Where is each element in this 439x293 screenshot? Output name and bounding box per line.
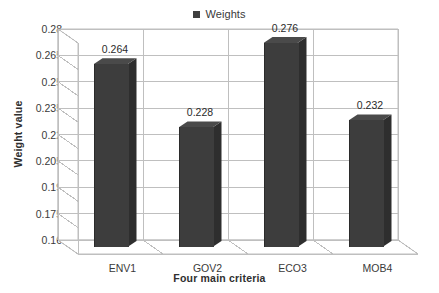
bar-value-label: 0.264 xyxy=(80,43,151,55)
bar-value-label: 0.228 xyxy=(165,106,236,118)
bar-side-face xyxy=(298,37,307,247)
bar-value-label: 0.232 xyxy=(335,99,406,111)
bar-front-face xyxy=(94,64,129,247)
x-axis-title: Four main criteria xyxy=(0,272,439,284)
bar-front-face xyxy=(264,43,299,247)
chart-bars: 0.264ENV10.228GOV20.276ECO30.232MOB4 xyxy=(0,0,439,293)
bar-front-face xyxy=(349,120,384,247)
bar-side-face xyxy=(213,121,222,247)
bar-side-face xyxy=(128,58,137,247)
bar-front-face xyxy=(179,127,214,247)
bar-side-face xyxy=(383,114,392,247)
bar-chart: Weights Weight value 0.280.2650.250.2350… xyxy=(0,0,439,293)
bar-value-label: 0.276 xyxy=(250,22,321,34)
